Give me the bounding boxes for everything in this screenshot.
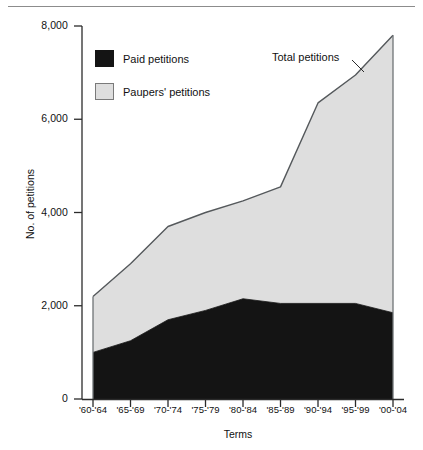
- x-tick-label: '95-'99: [342, 404, 370, 415]
- paid-swatch-icon: [95, 50, 114, 67]
- x-tick-label: '75-'79: [192, 404, 220, 415]
- x-tick-label: '85-'89: [267, 404, 295, 415]
- x-tick-label: '60-'64: [79, 404, 107, 415]
- y-tick-label: 0: [0, 392, 68, 404]
- chart-figure: 02,0004,0006,0008,000 '60-'64'65-'69'70-…: [0, 0, 423, 450]
- x-axis-title: Terms: [82, 428, 394, 440]
- legend-label-paid: Paid petitions: [123, 53, 189, 65]
- x-tick-label: '80-'84: [229, 404, 257, 415]
- paupers-swatch-icon: [95, 83, 114, 100]
- legend-label-paupers: Paupers' petitions: [123, 86, 210, 98]
- legend-item-paid-petitions: Paid petitions: [95, 50, 189, 67]
- y-tick-label: 2,000: [0, 299, 68, 311]
- x-tick-label: '65-'69: [117, 404, 145, 415]
- total-petitions-annotation: Total petitions: [272, 51, 339, 63]
- y-tick-label: 8,000: [0, 19, 68, 31]
- y-tick-label: 6,000: [0, 112, 68, 124]
- area-chart-plot: [0, 0, 423, 450]
- x-tick-label: '70-'74: [154, 404, 182, 415]
- x-tick-label: '00-'04: [379, 404, 407, 415]
- y-axis-title: No. of petitions: [24, 144, 36, 264]
- x-tick-label: '90-'94: [304, 404, 332, 415]
- legend-item-paupers-petitions: Paupers' petitions: [95, 83, 210, 100]
- y-tick-marks: [74, 26, 82, 399]
- total-petitions-leader-line: [352, 60, 364, 72]
